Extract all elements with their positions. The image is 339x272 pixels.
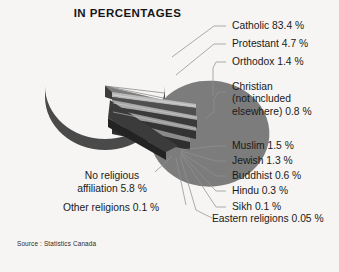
callout-christian-line1: Christian [232,81,336,93]
callout-protestant: Protestant 4.7 % [232,38,308,51]
callout-muslim: Muslim 1.5 % [232,140,294,153]
leader-catholic [172,26,226,57]
callout-sikh: Sikh 0.1 % [232,201,281,214]
source-note: Source : Statistics Canada [17,240,96,247]
callout-orthodox: Orthodox 1.4 % [232,56,304,69]
callout-no-affiliation-line1: No religious [62,170,162,183]
callout-hindu: Hindu 0.3 % [232,185,288,198]
callout-christian-line2: (not included [232,93,336,105]
callout-catholic: Catholic 83.4 % [232,20,304,33]
chart-title: IN PERCENTAGES [55,7,200,19]
callout-christian: Christian (not included elsewhere) 0.8 % [232,81,336,118]
callout-other-religions: Other religions 0.1 % [63,202,159,215]
callout-no-affiliation-line2: affiliation 5.8 % [62,183,162,196]
callout-jewish: Jewish 1.3 % [232,155,293,168]
callout-no-religious-affiliation: No religious affiliation 5.8 % [62,170,162,195]
callout-eastern-religions: Eastern religions 0.05 % [212,213,324,226]
pie-chart-figure: IN PERCENTAGES Catholic 83.4 % Protestan… [0,0,339,272]
callout-buddhist: Buddhist 0.6 % [232,170,301,183]
callout-christian-line3: elsewhere) 0.8 % [232,106,336,118]
